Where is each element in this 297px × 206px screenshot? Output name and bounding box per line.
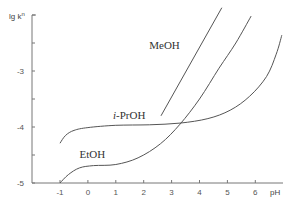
axes: -5-4-3-10123456pHlg kn (9, 11, 283, 197)
y-tick-label: -5 (17, 179, 25, 188)
series-label-i-proh: i-PrOH (113, 109, 145, 121)
labels: MeOHEtOHi-PrOH (80, 39, 180, 160)
x-tick-label: 3 (169, 188, 174, 197)
y-axis-title: lg kn (9, 11, 25, 21)
x-tick-label: 2 (141, 188, 146, 197)
x-tick-label: -1 (56, 188, 64, 197)
x-tick-label: 4 (197, 188, 202, 197)
series-label-etoh: EtOH (80, 148, 106, 160)
x-axis-title: pH (270, 188, 280, 197)
y-tick-label: -4 (17, 123, 25, 132)
series-label-meoh: MeOH (149, 39, 180, 51)
chart: -5-4-3-10123456pHlg kn MeOHEtOHi-PrOH (0, 0, 297, 206)
x-tick-label: 0 (86, 188, 91, 197)
y-tick-label: -3 (17, 67, 25, 76)
x-tick-label: 5 (225, 188, 230, 197)
x-tick-label: 6 (253, 188, 258, 197)
x-tick-label: 1 (114, 188, 119, 197)
series-meoh-curve (161, 8, 222, 116)
series-i-proh-curve (60, 35, 282, 143)
